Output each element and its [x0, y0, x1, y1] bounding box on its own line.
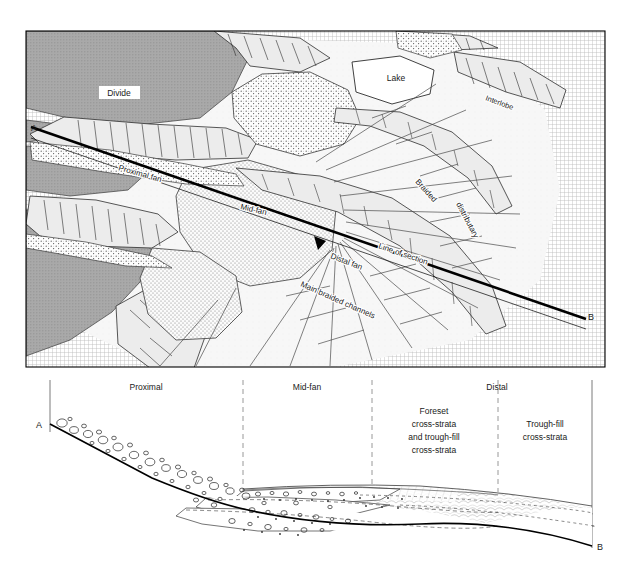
trough-line-1: Trough-fill — [526, 419, 564, 429]
map-label-divide-text: Divide — [107, 88, 131, 98]
section-endpoint-b: B — [597, 542, 603, 552]
map-label-divide: Divide — [99, 86, 140, 99]
trough-line-2: cross-strata — [523, 432, 568, 442]
map-label-lake-text: Lake — [387, 73, 406, 83]
section-zone-mid-fan: Mid-fan — [293, 382, 322, 392]
foreset-line-4: cross-strata — [412, 445, 457, 455]
section-endpoint-a: A — [36, 420, 42, 430]
foreset-line-2: cross-strata — [412, 419, 457, 429]
section-panel: Proximal Mid-fan Distal Foreset cross-st… — [36, 380, 603, 552]
foreset-line-1: Foreset — [420, 406, 449, 416]
map-label-lake: Lake — [380, 71, 413, 84]
section-facies-trough-block: Trough-fill cross-strata — [523, 419, 568, 442]
section-zone-distal: Distal — [486, 382, 507, 392]
geology-figure: A B Divide Lake Interlobe Proximal fan M… — [0, 0, 618, 573]
map-panel: A B Divide Lake Interlobe Proximal fan M… — [26, 31, 605, 368]
figure-root: A B Divide Lake Interlobe Proximal fan M… — [0, 0, 618, 573]
map-endpoint-b: B — [588, 312, 594, 322]
section-facies-foreset-block: Foreset cross-strata and trough-fill cro… — [408, 406, 460, 455]
section-zone-proximal: Proximal — [129, 382, 162, 392]
foreset-line-3: and trough-fill — [408, 432, 460, 442]
map-endpoint-a: A — [31, 123, 37, 133]
